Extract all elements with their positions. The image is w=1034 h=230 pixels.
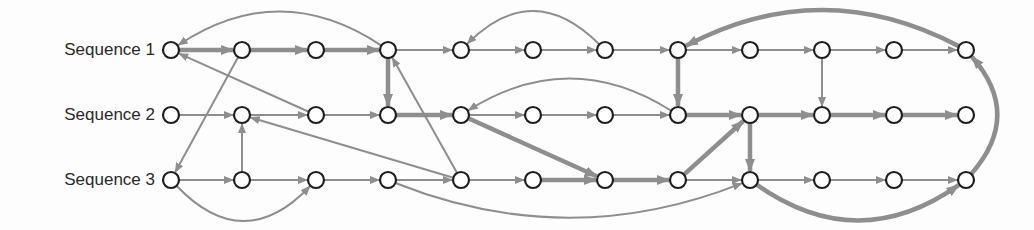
graph-canvas [0,0,1034,230]
node-seq3-12 [958,172,974,188]
node-seq3-10 [814,172,830,188]
node-seq3-1 [163,172,179,188]
node-seq2-8 [670,107,686,123]
node-seq3-11 [886,172,902,188]
edge-s3n12-to-s1n12 [971,57,997,174]
edge-s1n7-to-s1n5 [467,11,599,44]
edge-s3n8-to-s2n9 [684,121,743,175]
edge-s1n12-to-s1n8 [686,10,959,46]
node-seq1-9 [742,42,758,58]
node-seq2-9 [742,107,758,123]
alignment-graph: Sequence 1 Sequence 2 Sequence 3 [0,0,1034,230]
node-seq2-1 [163,107,179,123]
node-seq1-4 [380,42,396,58]
node-seq1-2 [234,42,250,58]
node-seq1-7 [597,42,613,58]
node-seq3-4 [380,172,396,188]
node-seq2-5 [453,107,469,123]
node-seq2-4 [380,107,396,123]
node-seq1-12 [958,42,974,58]
node-seq1-11 [886,42,902,58]
node-seq3-3 [308,172,324,188]
node-seq1-3 [308,42,324,58]
edge-s3n5-to-s2n2 [251,118,454,178]
edge-s2n8-to-s2n5 [469,79,672,111]
node-seq1-8 [670,42,686,58]
node-seq2-3 [308,107,324,123]
edge-s3n1-to-s3n3 [177,186,310,221]
edge-s2n5-to-s3n7 [468,118,597,176]
edge-s3n4-to-s3n9 [395,183,741,218]
node-seq3-2 [234,172,250,188]
node-seq3-8 [670,172,686,188]
node-seq3-6 [525,172,541,188]
node-seq2-6 [525,107,541,123]
node-seq2-12 [958,107,974,123]
node-seq3-9 [742,172,758,188]
node-seq2-7 [597,107,613,123]
node-seq1-6 [525,42,541,58]
node-seq1-5 [453,42,469,58]
edge-s3n9-to-s3n12 [757,185,959,221]
node-seq3-7 [597,172,613,188]
node-seq1-1 [163,42,179,58]
node-seq2-11 [886,107,902,123]
node-seq2-2 [234,107,250,123]
edge-s2n3-to-s1n1 [179,54,308,112]
node-seq3-5 [453,172,469,188]
edges-layer [175,10,997,221]
node-seq1-10 [814,42,830,58]
node-seq2-10 [814,107,830,123]
edge-s1n4-to-s1n1 [178,12,381,46]
